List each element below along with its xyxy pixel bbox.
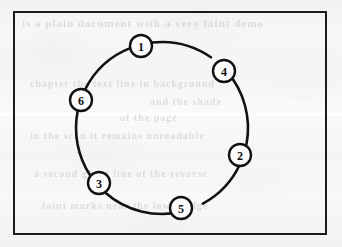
node-group: 142536 — [70, 35, 251, 219]
node-label: 5 — [178, 202, 184, 216]
ring-arc-segment — [203, 165, 240, 204]
node-label: 6 — [78, 94, 84, 108]
node-label: 3 — [96, 177, 102, 191]
ring-arc-segment — [152, 42, 211, 57]
node-label: 4 — [221, 65, 227, 79]
diagram-node[interactable]: 2 — [229, 144, 251, 166]
circle-diagram: 142536 — [0, 0, 342, 247]
node-label: 2 — [237, 149, 243, 163]
diagram-node[interactable]: 5 — [170, 197, 192, 219]
ring-arc-segment — [227, 72, 248, 144]
ring-arc-segment — [76, 111, 90, 176]
diagram-node[interactable]: 4 — [213, 60, 235, 82]
node-label: 1 — [138, 40, 144, 54]
diagram-node[interactable]: 1 — [130, 35, 152, 57]
figure-page: is a plain document with a very faint de… — [0, 0, 342, 247]
ring-arc-segment — [85, 48, 131, 90]
diagram-node[interactable]: 3 — [88, 172, 110, 194]
diagram-node[interactable]: 6 — [70, 89, 92, 111]
